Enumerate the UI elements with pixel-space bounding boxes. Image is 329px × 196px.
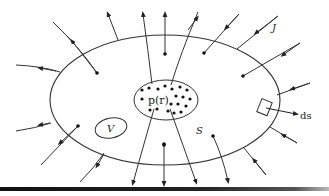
charge-density-label: p(r) [148, 94, 169, 107]
volume-label: V [107, 123, 116, 134]
diagram-canvas: p(r) V S J ds [0, 0, 329, 196]
bottom-divider [0, 187, 329, 191]
surface-element-label: ds [300, 110, 312, 121]
current-density-label: J [270, 22, 277, 33]
surface-element-icon [257, 99, 296, 116]
surface-label: S [196, 125, 203, 136]
